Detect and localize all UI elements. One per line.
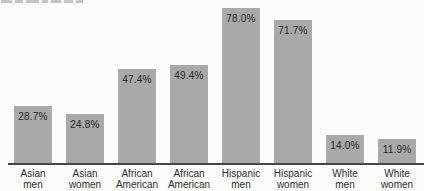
bar-value-label: 47.4% <box>118 74 156 85</box>
bar-value-label: 14.0% <box>326 140 364 151</box>
bar-chart: 28.7%Asianmen24.8%Asianwomen47.4%African… <box>0 0 424 191</box>
bar-value-label: 24.8% <box>66 119 104 130</box>
category-label-line: White <box>365 168 424 179</box>
chart-bar: 49.4% <box>170 65 208 163</box>
chart-bar: 24.8% <box>66 114 104 163</box>
chart-bar: 71.7% <box>274 20 312 163</box>
category-label-line: women <box>365 179 424 190</box>
chart-bar: 14.0% <box>326 135 364 163</box>
bar-value-label: 28.7% <box>14 111 52 122</box>
bar-value-label: 11.9% <box>378 144 416 155</box>
chart-bar: 28.7% <box>14 106 52 163</box>
bar-value-label: 71.7% <box>274 25 312 36</box>
chart-bar: 78.0% <box>222 8 260 163</box>
chart-bar: 11.9% <box>378 139 416 163</box>
x-axis-line <box>8 163 424 165</box>
bar-value-label: 49.4% <box>170 70 208 81</box>
bar-value-label: 78.0% <box>222 13 260 24</box>
chart-bar: 47.4% <box>118 69 156 163</box>
category-label: Whitewomen <box>365 168 424 190</box>
